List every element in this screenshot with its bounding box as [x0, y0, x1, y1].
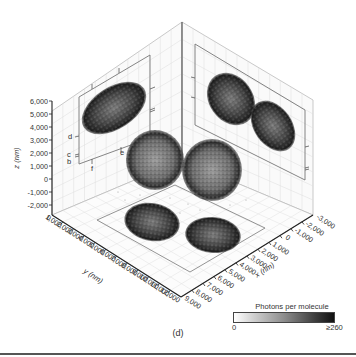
z-axis: 6,000 5,000 4,000 3,000 2,000 1,000 0 -1… [12, 97, 52, 210]
z-tick: -1,000 [28, 188, 48, 197]
y-axis-label: y (nm) [81, 266, 105, 286]
z-tick: 1,000 [30, 162, 48, 171]
colorbar-title: Photons per molecule [236, 302, 348, 311]
z-tick: 3,000 [30, 136, 48, 145]
panel-label: (d) [0, 328, 356, 338]
x-tick: 0 [284, 233, 292, 243]
z-tick: 5,000 [30, 110, 48, 119]
z-tick: 6,000 [30, 97, 48, 106]
z-tick: 4,000 [30, 123, 48, 132]
box-label-e: e [120, 148, 124, 157]
z-tick: 2,000 [30, 149, 48, 158]
box-label-b: b [67, 157, 71, 166]
z-axis-label: z (nm) [12, 147, 21, 170]
z-tick: 0 [44, 175, 48, 184]
z-tick: -2,000 [28, 201, 48, 210]
colorbar [233, 312, 335, 323]
divider [0, 353, 356, 355]
box-label-d: d [68, 132, 72, 141]
